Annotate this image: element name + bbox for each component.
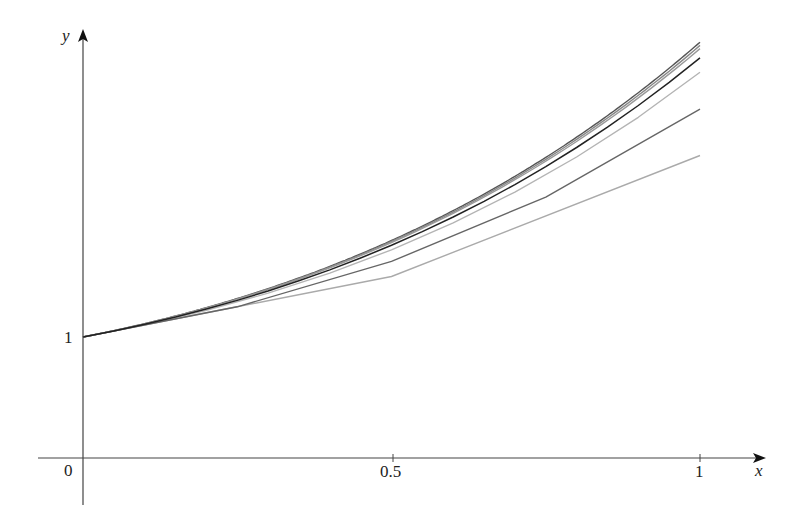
x-tick-label-1: 1	[695, 462, 704, 481]
series-lines	[83, 42, 700, 337]
origin-label: 0	[64, 461, 73, 480]
series-line	[83, 109, 700, 337]
series-line	[83, 49, 700, 337]
series-line	[83, 42, 700, 337]
x-tick-label-0.5: 0.5	[380, 462, 401, 481]
y-tick-label-1: 1	[64, 328, 73, 347]
series-line	[83, 58, 700, 337]
chart: y x 0 0.5 1 1	[0, 0, 807, 527]
x-axis-label: x	[754, 461, 763, 480]
series-line	[83, 72, 700, 337]
y-axis-label: y	[60, 26, 70, 45]
series-line	[83, 156, 700, 338]
